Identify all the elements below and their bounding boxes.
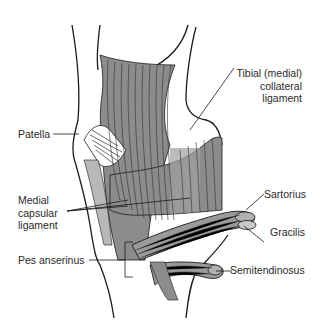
label-tibial-collateral-ligament: Tibial (medial) collateral ligament [206,67,302,105]
tibial-collateral-line1: Tibial (medial) [206,67,302,80]
label-pes-anserinus: Pes anserinus [18,254,85,267]
pes-anserinus-tendons [132,211,256,300]
tibial-collateral-line2: collateral [206,80,302,93]
label-semitendinosus: Semitendinosus [230,264,305,277]
label-medial-capsular-ligament: Medial capsular ligament [18,194,58,232]
medial-capsular-line3: ligament [18,219,58,232]
tibial-collateral-line3: ligament [206,92,302,105]
medial-capsular-line1: Medial [18,194,58,207]
knee-anatomy-diagram: Tibial (medial) collateral ligament Pate… [0,0,322,333]
knee-illustration [0,0,322,333]
label-sartorius: Sartorius [264,188,306,201]
medial-capsular-line2: capsular [18,207,58,220]
label-patella: Patella [18,128,50,141]
label-gracilis: Gracilis [270,226,305,239]
